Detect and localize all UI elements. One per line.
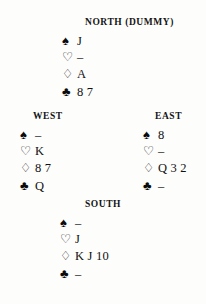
heart-icon: ♡ bbox=[60, 231, 73, 248]
hand-label-east: EAST bbox=[155, 111, 182, 122]
suit-row-north-hearts: ♡ – bbox=[62, 49, 93, 66]
west-clubs-cards: Q bbox=[33, 178, 44, 195]
heart-icon: ♡ bbox=[20, 143, 33, 160]
spade-icon: ♠ bbox=[62, 32, 75, 49]
suit-row-east-spades: ♠ 8 bbox=[143, 126, 187, 143]
spade-icon: ♠ bbox=[143, 126, 156, 143]
north-diamonds-cards: A bbox=[75, 66, 86, 83]
west-hearts-cards: K bbox=[33, 143, 44, 160]
diamond-icon: ♢ bbox=[143, 160, 156, 177]
suit-row-east-hearts: ♡ – bbox=[143, 143, 187, 160]
club-icon: ♣ bbox=[62, 83, 75, 100]
hand-label-south: SOUTH bbox=[85, 199, 121, 210]
suit-row-north-diamonds: ♢ A bbox=[62, 66, 93, 83]
club-icon: ♣ bbox=[20, 177, 33, 194]
west-spades-cards: – bbox=[33, 127, 41, 144]
spade-icon: ♠ bbox=[60, 214, 73, 231]
south-hearts-cards: J bbox=[73, 231, 80, 248]
suit-row-west-hearts: ♡ K bbox=[20, 143, 51, 160]
diamond-icon: ♢ bbox=[60, 248, 73, 265]
west-diamonds-cards: 8 7 bbox=[33, 160, 51, 177]
hand-label-north: NORTH (DUMMY) bbox=[85, 17, 174, 28]
suit-row-south-diamonds: ♢ K J 10 bbox=[60, 248, 109, 265]
suit-rows-east: ♠ 8 ♡ – ♢ Q 3 2 ♣ – bbox=[143, 126, 187, 194]
diamond-icon: ♢ bbox=[62, 66, 75, 83]
suit-row-west-diamonds: ♢ 8 7 bbox=[20, 160, 51, 177]
south-spades-cards: – bbox=[73, 215, 81, 232]
east-clubs-cards: – bbox=[156, 178, 164, 195]
suit-row-north-spades: ♠ J bbox=[62, 32, 93, 49]
club-icon: ♣ bbox=[60, 265, 73, 282]
bridge-hand-diagram: NORTH (DUMMY) ♠ J ♡ – ♢ A ♣ 8 7 WEST bbox=[0, 0, 206, 304]
diamond-icon: ♢ bbox=[20, 160, 33, 177]
suit-row-south-hearts: ♡ J bbox=[60, 231, 109, 248]
suit-row-south-spades: ♠ – bbox=[60, 214, 109, 231]
east-hearts-cards: – bbox=[156, 143, 164, 160]
east-diamonds-cards: Q 3 2 bbox=[156, 160, 187, 177]
suit-row-north-clubs: ♣ 8 7 bbox=[62, 83, 93, 100]
suit-rows-south: ♠ – ♡ J ♢ K J 10 ♣ – bbox=[60, 214, 109, 282]
heart-icon: ♡ bbox=[62, 49, 75, 66]
north-clubs-cards: 8 7 bbox=[75, 84, 93, 101]
north-spades-cards: J bbox=[75, 33, 82, 50]
suit-row-south-clubs: ♣ – bbox=[60, 265, 109, 282]
suit-rows-north: ♠ J ♡ – ♢ A ♣ 8 7 bbox=[62, 32, 93, 100]
south-diamonds-cards: K J 10 bbox=[73, 248, 109, 265]
heart-icon: ♡ bbox=[143, 143, 156, 160]
suit-rows-west: ♠ – ♡ K ♢ 8 7 ♣ Q bbox=[20, 126, 51, 194]
east-spades-cards: 8 bbox=[156, 127, 164, 144]
south-clubs-cards: – bbox=[73, 266, 81, 283]
suit-row-west-spades: ♠ – bbox=[20, 126, 51, 143]
north-hearts-cards: – bbox=[75, 49, 83, 66]
suit-row-west-clubs: ♣ Q bbox=[20, 177, 51, 194]
club-icon: ♣ bbox=[143, 177, 156, 194]
suit-row-east-clubs: ♣ – bbox=[143, 177, 187, 194]
hand-label-west: WEST bbox=[33, 111, 63, 122]
suit-row-east-diamonds: ♢ Q 3 2 bbox=[143, 160, 187, 177]
spade-icon: ♠ bbox=[20, 126, 33, 143]
